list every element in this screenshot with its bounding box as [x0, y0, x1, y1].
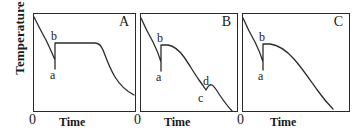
panel-b-label-c: c — [198, 92, 203, 104]
panel-c: C b a — [242, 13, 350, 112]
panel-b-label-d: d — [203, 75, 209, 87]
panel-a: A b a — [33, 13, 136, 112]
panel-b-label-b: b — [157, 32, 163, 44]
panel-c-label-b: b — [259, 31, 265, 43]
panel-a-x-label: Time — [59, 116, 85, 128]
cooling-curve-c — [242, 13, 350, 112]
cooling-curve-a — [33, 13, 136, 112]
cooling-curves-figure: Temperature A b a B b a d c C b a 0 0 0 … — [0, 0, 362, 140]
panel-a-label-b: b — [51, 30, 57, 42]
panel-b: B b a d c — [140, 13, 238, 112]
panel-b-label-a: a — [156, 71, 161, 83]
panel-a-x-origin: 0 — [29, 113, 36, 127]
panel-c-x-label: Time — [270, 116, 296, 128]
cooling-curve-b — [140, 13, 238, 112]
panel-b-x-label: Time — [164, 116, 190, 128]
panel-a-label-a: a — [50, 69, 55, 81]
panel-c-x-origin: 0 — [237, 113, 244, 127]
panel-c-label-a: a — [258, 70, 263, 82]
y-axis-label: Temperature — [12, 0, 28, 93]
panel-b-x-origin: 0 — [134, 113, 141, 127]
